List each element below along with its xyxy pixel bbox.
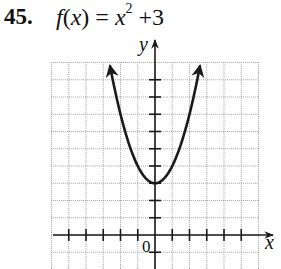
x-axis-label: x <box>264 231 274 253</box>
y-axis-label: y <box>137 33 148 56</box>
origin-label: 0 <box>142 237 151 256</box>
graph: y x 0 <box>0 0 281 269</box>
